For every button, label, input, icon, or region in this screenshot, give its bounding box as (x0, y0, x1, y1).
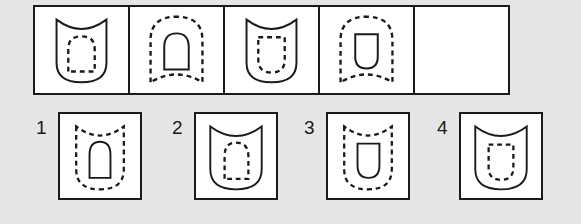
outer-arch-dashed (341, 17, 393, 83)
figure-dashed-arch-with-solid-shield (320, 7, 413, 93)
sequence-cell-3[interactable] (225, 7, 320, 93)
inner-u-solid (358, 144, 380, 178)
inner-arch-solid (164, 33, 188, 69)
empty-answer-area (415, 7, 508, 93)
figure-solid-shield-with-dashed-arch (35, 7, 128, 93)
option-group-2: 2 (172, 112, 278, 204)
option-number-2: 2 (172, 118, 185, 137)
inner-shield-dashed (258, 37, 284, 72)
outer-shield-solid (247, 20, 297, 83)
inner-u-dashed (489, 145, 514, 180)
outer-shield-solid (475, 126, 526, 189)
figure-dashed-arch-with-solid-arch (130, 7, 223, 93)
figure-solid-shield-with-dashed-arch (196, 114, 276, 198)
figure-dashed-shield-with-solid-arch (60, 114, 140, 198)
inner-arch-dashed (225, 143, 249, 179)
option-group-3: 3 (304, 112, 410, 204)
option-box-4[interactable] (459, 112, 543, 200)
option-group-4: 4 (437, 112, 543, 204)
outer-arch-dashed (151, 17, 203, 83)
figure-dashed-shield-with-solid-u (328, 114, 408, 198)
sequence-strip (33, 5, 510, 95)
figure-solid-shield-with-dashed-shield (225, 7, 318, 93)
options-row: 1 2 3 (0, 112, 581, 208)
option-number-1: 1 (36, 118, 49, 137)
inner-arch-solid (90, 142, 111, 178)
sequence-cell-5-answer-slot[interactable] (415, 7, 508, 93)
sequence-cell-2[interactable] (130, 7, 225, 93)
puzzle-page: 1 2 3 (0, 0, 581, 224)
outer-shield-dashed (344, 126, 392, 189)
option-number-4: 4 (437, 118, 450, 137)
outer-shield-solid (57, 20, 107, 83)
figure-solid-shield-with-dashed-u (461, 114, 541, 198)
sequence-cell-1[interactable] (35, 7, 130, 93)
option-box-1[interactable] (58, 112, 142, 200)
inner-shield-solid (355, 34, 378, 68)
option-group-1: 1 (36, 112, 142, 204)
inner-arch-dashed (68, 36, 94, 71)
sequence-cell-4[interactable] (320, 7, 415, 93)
option-box-2[interactable] (194, 112, 278, 200)
option-box-3[interactable] (326, 112, 410, 200)
option-number-3: 3 (304, 118, 317, 137)
outer-shield-dashed (76, 126, 124, 189)
